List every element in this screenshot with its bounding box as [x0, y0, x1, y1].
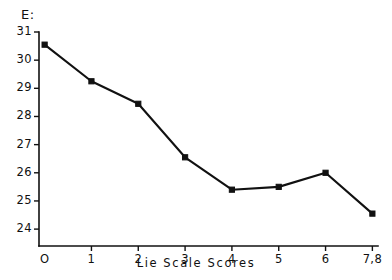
data-point-marker	[229, 187, 234, 192]
data-point-marker	[182, 155, 187, 160]
data-series-line	[45, 45, 373, 214]
y-tick-label: 28	[8, 110, 32, 122]
y-tick-label: 31	[8, 26, 32, 38]
y-tick-label: 30	[8, 54, 32, 66]
data-point-markers	[42, 42, 375, 216]
data-point-marker	[323, 170, 328, 175]
y-tick-label: 27	[8, 139, 32, 151]
y-tick-label: 25	[8, 195, 32, 207]
data-point-marker	[276, 184, 281, 189]
axes-group	[39, 32, 378, 246]
data-point-marker	[370, 211, 375, 216]
chart-canvas	[0, 0, 392, 280]
y-tick-label: 29	[8, 82, 32, 94]
line-chart: E: 3130292827262524 O1234567,8 Lie Scale…	[0, 0, 392, 280]
data-point-marker	[89, 79, 94, 84]
x-axis-title: Lie Scale Scores	[0, 258, 392, 270]
y-tick-label: 24	[8, 223, 32, 235]
y-tick-label: 26	[8, 167, 32, 179]
data-point-marker	[136, 101, 141, 106]
data-point-marker	[42, 42, 47, 47]
